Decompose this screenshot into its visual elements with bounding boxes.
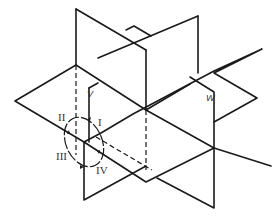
quadrant-label-1: I — [98, 116, 102, 128]
v-plane-label: V — [87, 89, 94, 99]
quadrant-label-3: III — [56, 150, 67, 162]
three-planes-diagram: V W I II III IV — [0, 0, 277, 222]
v-plane — [76, 9, 146, 200]
h-plane — [15, 65, 271, 182]
quadrant-label-4: IV — [96, 164, 108, 176]
w-plane — [84, 16, 262, 208]
quadrant-label-2: II — [58, 111, 66, 123]
